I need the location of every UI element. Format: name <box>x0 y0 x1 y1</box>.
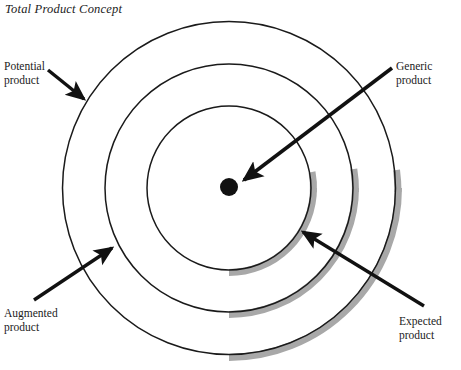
potential-product-arrow <box>48 70 84 99</box>
generic-product-arrow <box>244 68 392 180</box>
expected-ring-shadow-top <box>312 172 314 192</box>
label-potential-product-line1: Potential <box>4 60 45 74</box>
label-augmented-product-line2: product <box>4 321 58 335</box>
total-product-concept-figure: Total Product Concept <box>0 0 461 370</box>
label-expected-product: Expected product <box>399 315 442 342</box>
label-expected-product-line1: Expected <box>399 315 442 329</box>
diagram-canvas <box>0 0 461 370</box>
expected-ring-shadow <box>229 188 314 273</box>
label-augmented-product-line1: Augmented <box>4 307 58 321</box>
label-generic-product: Generic product <box>396 60 432 87</box>
label-expected-product-line2: product <box>399 329 442 343</box>
augmented-ring-shadow-top <box>354 169 356 192</box>
ring-shadows <box>229 169 399 358</box>
augmented-product-arrow <box>34 248 112 300</box>
label-generic-product-line2: product <box>396 74 432 88</box>
label-potential-product: Potential product <box>4 60 45 87</box>
label-generic-product-line1: Generic <box>396 60 432 74</box>
label-augmented-product: Augmented product <box>4 307 58 334</box>
potential-ring-shadow-top <box>397 170 399 192</box>
label-potential-product-line2: product <box>4 74 45 88</box>
generic-product-dot <box>220 178 238 196</box>
